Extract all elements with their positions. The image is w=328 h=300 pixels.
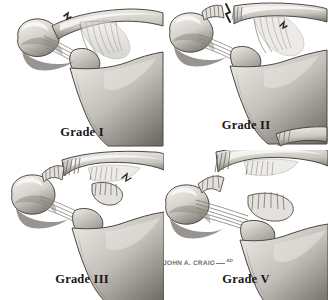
torn-ac-ligament-acromial-stump xyxy=(202,5,224,20)
signature-rule xyxy=(216,263,225,264)
acromial-ligament-stump xyxy=(198,175,224,193)
sprain-marker xyxy=(64,13,71,19)
grade-label-2: Grade II xyxy=(164,118,328,133)
grade-label-1: Grade I xyxy=(0,125,164,140)
coracoid-ligament-stump xyxy=(92,182,123,205)
grade-label-5: Grade V xyxy=(164,272,328,287)
ac-joint-separation-figure: Grade I Grade II Grade III Grade V JOHN … xyxy=(0,0,328,300)
coracoid-ligament-stump xyxy=(248,192,293,221)
artist-signature-name: JOHN A. CRAIG xyxy=(163,259,215,266)
artist-signature: JOHN A. CRAIGAD xyxy=(163,258,230,271)
grade-label-3: Grade III xyxy=(0,272,164,287)
artist-signature-suffix: AD xyxy=(226,258,233,263)
ac-separation-gap xyxy=(226,4,230,22)
acromial-ligament-stump xyxy=(42,166,64,182)
